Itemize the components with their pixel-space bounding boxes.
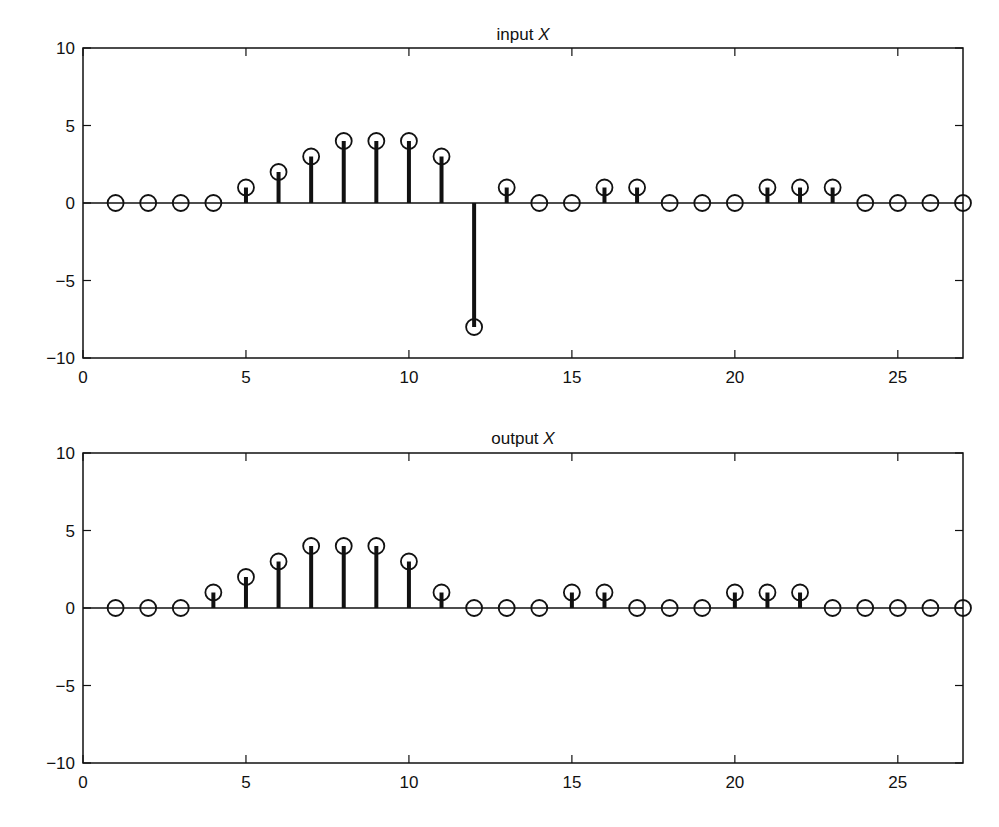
x-tick-label: 0 <box>78 773 87 792</box>
x-tick-label: 10 <box>399 773 418 792</box>
x-tick-label: 10 <box>399 368 418 387</box>
y-tick-label: 0 <box>66 599 75 618</box>
x-tick-label: 15 <box>562 773 581 792</box>
y-tick-label: −10 <box>46 349 75 368</box>
y-tick-label: 5 <box>66 117 75 136</box>
output-x-plot: output X0510152025−10−50510 <box>46 429 971 792</box>
input-x-plot: input X0510152025−10−50510 <box>46 25 971 387</box>
x-tick-label: 25 <box>888 773 907 792</box>
x-tick-label: 20 <box>725 368 744 387</box>
x-tick-label: 20 <box>725 773 744 792</box>
y-tick-label: −5 <box>56 677 75 696</box>
stem-plots-figure: input X0510152025−10−50510 output X05101… <box>0 0 999 827</box>
y-tick-label: 10 <box>56 444 75 463</box>
y-tick-label: 5 <box>66 522 75 541</box>
plot-title: input X <box>497 25 551 44</box>
x-tick-label: 5 <box>241 368 250 387</box>
plot-title: output X <box>491 429 555 448</box>
x-tick-label: 15 <box>562 368 581 387</box>
x-tick-label: 25 <box>888 368 907 387</box>
y-tick-label: 0 <box>66 194 75 213</box>
y-tick-label: −5 <box>56 272 75 291</box>
y-tick-label: −10 <box>46 754 75 773</box>
x-tick-label: 5 <box>241 773 250 792</box>
x-tick-label: 0 <box>78 368 87 387</box>
y-tick-label: 10 <box>56 39 75 58</box>
